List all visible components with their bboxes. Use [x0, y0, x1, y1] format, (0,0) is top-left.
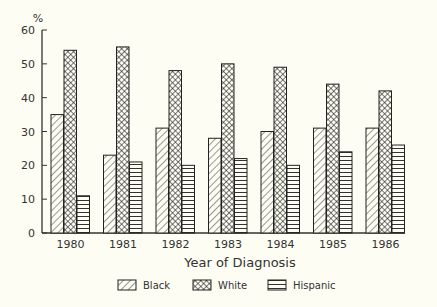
bar-hispanic-1984 [287, 165, 300, 233]
y-tick-label: 60 [21, 24, 35, 37]
legend-label-black: Black [143, 280, 170, 291]
bar-black-1982 [156, 128, 169, 233]
legend: BlackWhiteHispanic [118, 280, 336, 291]
x-tick-label: 1982 [162, 238, 190, 251]
bar-chart: 0102030405060 19801981198219831984198519… [0, 0, 437, 307]
bar-hispanic-1986 [392, 145, 405, 233]
legend-label-white: White [218, 280, 247, 291]
x-tick-label: 1984 [267, 238, 295, 251]
bar-white-1984 [274, 67, 287, 233]
y-tick-label: 50 [21, 58, 35, 71]
bar-black-1981 [104, 155, 117, 233]
y-tick-label: 40 [21, 92, 35, 105]
x-tick-label: 1983 [214, 238, 242, 251]
bar-hispanic-1982 [182, 165, 195, 233]
y-tick-label: 20 [21, 159, 35, 172]
y-tick-label: 0 [28, 227, 35, 240]
x-tick-labels: 1980198119821983198419851986 [57, 238, 400, 251]
bar-hispanic-1981 [130, 162, 143, 233]
legend-swatch-hispanic [268, 280, 286, 290]
y-tick-label: 30 [21, 126, 35, 139]
bar-black-1985 [314, 128, 327, 233]
bars [51, 47, 405, 233]
x-tick-label: 1985 [319, 238, 347, 251]
bar-white-1981 [117, 47, 130, 233]
bar-hispanic-1985 [340, 152, 353, 233]
bar-white-1983 [222, 64, 235, 233]
bar-black-1986 [366, 128, 379, 233]
legend-swatch-black [118, 280, 136, 290]
x-axis-title: Year of Diagnosis [183, 255, 296, 270]
legend-label-hispanic: Hispanic [293, 280, 336, 291]
x-tick-label: 1980 [57, 238, 85, 251]
y-tick-label: 10 [21, 193, 35, 206]
bar-black-1984 [261, 132, 274, 234]
bar-hispanic-1980 [77, 196, 90, 233]
bar-black-1983 [209, 138, 222, 233]
bar-white-1980 [64, 50, 77, 233]
bar-white-1985 [327, 84, 340, 233]
x-tick-label: 1986 [372, 238, 400, 251]
bar-black-1980 [51, 115, 64, 233]
bar-white-1982 [169, 71, 182, 233]
legend-swatch-white [193, 280, 211, 290]
x-tick-label: 1981 [109, 238, 137, 251]
bar-hispanic-1983 [235, 159, 248, 233]
bar-white-1986 [379, 91, 392, 233]
y-axis-unit: % [33, 12, 43, 25]
